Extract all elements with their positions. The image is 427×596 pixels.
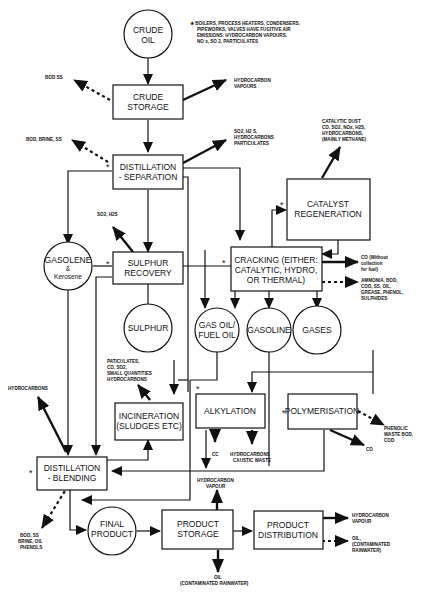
node-label: STORAGE [127, 102, 169, 112]
node-crude-storage[interactable]: CRUDE STORAGE [113, 85, 183, 119]
emission-label: HYDROCARBONS [107, 377, 147, 382]
emission-label: VAPOURS [234, 84, 256, 89]
node-incineration[interactable]: INCINERATION (SLUDGES ETC) [115, 403, 183, 440]
node-alkylation[interactable]: ALKYLATION [196, 394, 265, 428]
emission-label: HYDROCARBONS [8, 386, 48, 391]
emission-label: COD [384, 438, 395, 443]
node-label: GAS OIL/ [199, 320, 236, 330]
emission-label: VAPOUR [206, 484, 226, 489]
emission-label: CO, SO2, NOx, H2S, [322, 125, 365, 130]
node-gasoline[interactable]: GASOLINE [247, 308, 291, 352]
emission-label: CO, SO2, [107, 365, 127, 370]
emission-label: BOD, SS [20, 533, 39, 538]
node-label: PRODUCT [177, 519, 219, 529]
node-sulphur[interactable]: SULPHUR [124, 304, 172, 352]
emission-label: HYDROCARBON [197, 478, 234, 483]
node-label: RECOVERY [124, 268, 172, 278]
node-label: OR THERMAL) [247, 275, 306, 285]
emission-label: RAINWATER) [352, 548, 381, 553]
emission-label: COD, SS, OIL, [361, 284, 391, 289]
emission-label: for fuel) [361, 267, 379, 272]
node-final-product[interactable]: FINAL PRODUCT [88, 507, 136, 555]
emission-label: HYDROCARBON [234, 78, 271, 83]
emission-label: CATALYTIC DUST [322, 119, 361, 124]
emission-label: (MAINLY METHANE) [322, 137, 367, 142]
node-label: INCINERATION [119, 411, 179, 421]
footnote-line: ★ BOILERS, PROCESS HEATERS, CONDENSERS, [190, 21, 300, 26]
node-label: CATALYTIC, HYDRO, [235, 265, 318, 275]
node-label: - BLENDING [48, 473, 97, 483]
node-catalyst-regeneration[interactable]: CATALYST REGENERATION [287, 179, 370, 240]
node-crude-oil[interactable]: CRUDE OIL [124, 10, 172, 58]
node-gas-oil[interactable]: GAS OIL/ FUEL OIL [195, 308, 239, 352]
node-label: OIL [141, 35, 155, 45]
node-label: GASES [302, 325, 332, 335]
star-icon: * [222, 258, 226, 268]
star-icon: * [106, 259, 110, 269]
footnote-line: PIPEWORKS, VALVES HAVE FUGITIVE AIR [197, 27, 291, 32]
emission-label: BRINE, OIL [18, 539, 43, 544]
node-label: DISTRIBUTION [258, 530, 318, 540]
footnote-line: EMISSIONS: HYDROCARBON VAPOURS. [197, 33, 287, 38]
node-label: POLYMERISATION [285, 406, 359, 416]
emission-label: HYDROCARBONS, [322, 131, 363, 136]
node-label: CRUDE [133, 25, 164, 35]
emission-label: AMMONIA, BOD, [361, 278, 398, 283]
emission-label: (CONTAMINATED [352, 542, 391, 547]
emission-label: CO [366, 447, 373, 452]
emission-label: CC [212, 452, 219, 457]
star-icon: * [282, 408, 286, 418]
node-label: (SLUDGES ETC) [116, 421, 182, 431]
node-gases[interactable]: GASES [293, 306, 341, 354]
refinery-flow-diagram: CRUDE OIL CRUDE STORAGE DISTILLATION - S… [0, 0, 427, 596]
emission-label: SO2, H2 S, [234, 129, 257, 134]
emission-label: SMALL QUANTITIES [107, 371, 152, 376]
node-label: DISTILLATION [120, 162, 177, 172]
node-cracking[interactable]: CRACKING (EITHER: CATALYTIC, HYDRO, OR T… [231, 247, 322, 291]
node-label: GASOLINE [247, 325, 291, 335]
emission-label: WASTE BOD, [384, 432, 413, 437]
node-distillation-blending[interactable]: DISTILLATION - BLENDING [37, 457, 107, 490]
emission-label: PHENOLIC [384, 426, 408, 431]
emission-label: (CONTAMINATED RAINWATER) [180, 581, 249, 586]
node-label: PRODUCT [91, 529, 133, 539]
emission-label: GREASE, PHENOL, [361, 290, 403, 295]
emission-label: collection [361, 261, 383, 266]
emission-label: CAUSTIC WASTE [233, 458, 271, 463]
node-label: FUEL OIL [198, 330, 236, 340]
footnote: ★ BOILERS, PROCESS HEATERS, CONDENSERS, … [190, 21, 300, 44]
node-gasolene-kerosene[interactable]: GASOLENE & Kerosene [44, 242, 92, 290]
emission-label: CO (Without [361, 255, 388, 260]
node-label: CRACKING (EITHER: [234, 255, 318, 265]
node-label: STORAGE [177, 529, 219, 539]
node-label: DISTILLATION [44, 463, 101, 473]
node-label: GASOLENE [45, 255, 92, 265]
emission-label: PARTICULATES [234, 141, 269, 146]
node-sulphur-recovery[interactable]: SULPHUR RECOVERY [113, 252, 183, 284]
emission-label: OIL [214, 575, 222, 580]
star-icon: * [29, 468, 33, 478]
emission-label: SO2, H2S [97, 212, 118, 217]
node-label: FINAL [100, 519, 124, 529]
emission-label: PATICULATES, [107, 359, 139, 364]
node-label: CATALYST [307, 199, 349, 209]
star-icon: * [280, 200, 284, 210]
emission-label: BOD, BRINE, SS [26, 137, 62, 142]
node-polymerisation[interactable]: POLYMERISATION [285, 394, 359, 429]
node-distillation-separation[interactable]: DISTILLATION - SEPARATION [113, 155, 183, 189]
star-icon: * [106, 162, 110, 172]
node-product-distribution[interactable]: PRODUCT DISTRIBUTION [254, 511, 323, 549]
emission-label: SULPHIDES [361, 296, 387, 301]
emission-label: OIL, [352, 536, 361, 541]
emission-label: HYDROCARBONS [234, 135, 274, 140]
node-label: CRUDE [133, 92, 164, 102]
node-label: REGENERATION [294, 209, 361, 219]
node-label: SULPHUR [128, 323, 169, 333]
emission-label: BOD SS [45, 75, 63, 80]
emission-label: PHENOLS [20, 545, 42, 550]
node-label: & [66, 265, 71, 272]
footnote-line: NO x, SO 2, PARTICULATES [197, 39, 258, 44]
node-product-storage[interactable]: PRODUCT STORAGE [162, 510, 233, 549]
node-label: SULPHUR [128, 258, 169, 268]
emission-label: VAPOUR [352, 519, 372, 524]
